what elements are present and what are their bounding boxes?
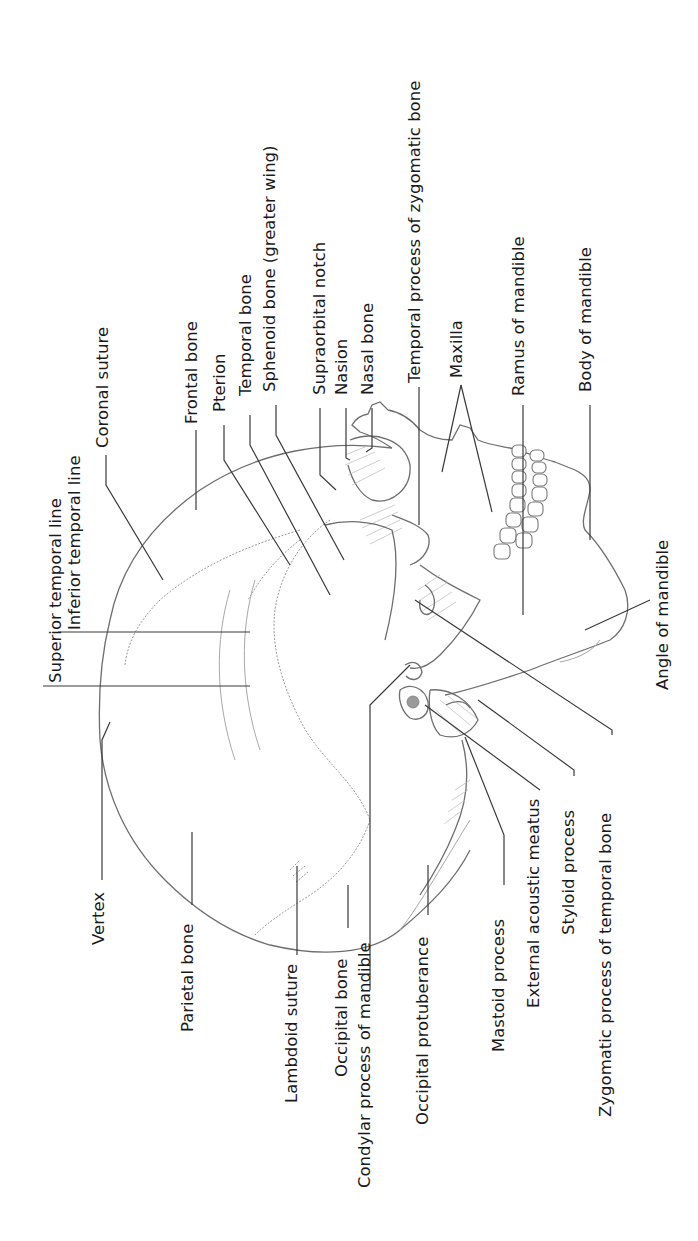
face-outline <box>352 402 510 448</box>
coronal-suture-line <box>125 530 300 665</box>
label-temporal-bone: Temporal bone <box>236 274 255 397</box>
label-occipital-bone: Occipital bone <box>332 959 351 1077</box>
label-nasion: Nasion <box>332 339 351 395</box>
label-condylar-process: Condylar process of mandible <box>355 942 374 1188</box>
label-pterion: Pterion <box>210 354 229 413</box>
skull-illustration <box>99 402 627 952</box>
skull-diagram: Superior temporal line Inferior temporal… <box>0 0 698 1241</box>
label-coronal-suture: Coronal suture <box>93 327 112 448</box>
label-temporal-process-zygomatic: Temporal process of zygomatic bone <box>405 81 424 384</box>
label-frontal-bone: Frontal bone <box>182 321 201 424</box>
label-body-of-mandible: Body of mandible <box>576 247 595 392</box>
labels: Superior temporal line Inferior temporal… <box>46 81 672 1188</box>
label-lambdoid-suture: Lambdoid suture <box>282 964 301 1103</box>
label-inferior-temporal-line: Inferior temporal line <box>65 455 84 630</box>
label-styloid-process: Styloid process <box>559 810 578 935</box>
label-maxilla: Maxilla <box>447 320 466 378</box>
label-occipital-protuberance: Occipital protuberance <box>413 937 432 1125</box>
label-angle-of-mandible: Angle of mandible <box>653 540 672 690</box>
label-mastoid-process: Mastoid process <box>489 919 508 1052</box>
label-external-acoustic-meatus: External acoustic meatus <box>524 799 543 1008</box>
label-supraorbital-notch: Supraorbital notch <box>310 242 329 395</box>
label-nasal-bone: Nasal bone <box>358 303 377 395</box>
label-sphenoid-bone: Sphenoid bone (greater wing) <box>260 145 279 392</box>
label-zygomatic-process-temporal: Zygomatic process of temporal bone <box>596 813 615 1117</box>
label-vertex: Vertex <box>89 892 108 945</box>
label-ramus-of-mandible: Ramus of mandible <box>509 236 528 396</box>
label-parietal-bone: Parietal bone <box>178 924 197 1032</box>
label-superior-temporal-line: Superior temporal line <box>46 498 65 683</box>
